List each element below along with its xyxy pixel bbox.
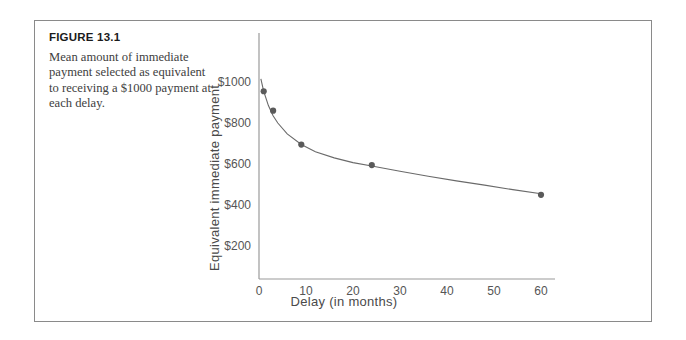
data-point-1: [270, 108, 276, 114]
y-tick-label: $600: [195, 157, 251, 171]
y-tick-label: $200: [195, 239, 251, 253]
figure-frame: FIGURE 13.1 Mean amount of immediate pay…: [34, 20, 652, 322]
data-point-2: [298, 141, 304, 147]
fit-curve: [261, 79, 541, 194]
y-axis-title: Equivalent immediate payment: [207, 85, 222, 271]
y-tick-label: $800: [195, 116, 251, 130]
data-point-markers: [261, 88, 545, 198]
y-tick-label: $1000: [195, 75, 251, 89]
data-point-4: [538, 192, 544, 198]
chart-plot-area: $1000 $800 $600 $400 $200 0 10 20 30 40 …: [35, 21, 653, 323]
x-axis-title: Delay (in months): [35, 294, 653, 309]
scatter-chart: [35, 21, 653, 323]
data-point-3: [369, 162, 375, 168]
data-point-0: [261, 88, 267, 94]
fit-curve-path: [261, 79, 541, 194]
y-tick-label: $400: [195, 198, 251, 212]
